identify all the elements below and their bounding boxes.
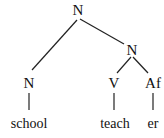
edge-n-af	[133, 57, 148, 73]
word-teach: teach	[100, 117, 130, 131]
edge-root-right	[80, 19, 124, 44]
node-v: V	[109, 76, 120, 91]
edge-n-v	[117, 57, 131, 73]
word-er: er	[148, 117, 159, 131]
node-root-n: N	[73, 3, 84, 18]
node-right-n: N	[127, 43, 138, 58]
word-school: school	[11, 117, 48, 131]
node-left-n: N	[24, 76, 35, 91]
edge-root-left	[32, 20, 77, 70]
node-af: Af	[145, 76, 161, 91]
